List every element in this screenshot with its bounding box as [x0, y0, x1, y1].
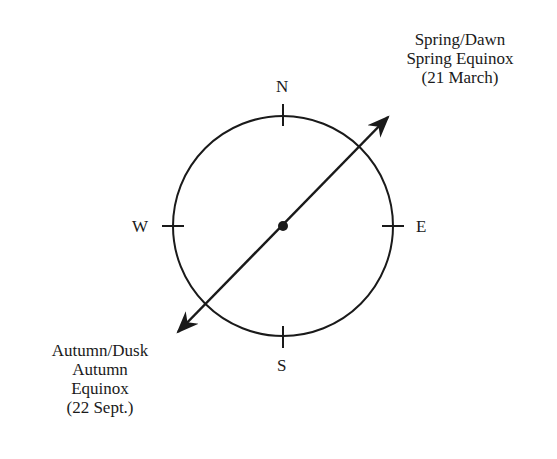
autumn-dusk-label: Autumn/Dusk Autumn Equinox (22 Sept.): [30, 341, 170, 417]
observer-dot: [278, 221, 288, 231]
west-label: W: [132, 217, 148, 236]
autumn-line-2: Autumn: [30, 360, 170, 379]
spring-line-3: (21 March): [390, 68, 530, 87]
spring-line-1: Spring/Dawn: [390, 30, 530, 49]
autumn-line-3: Equinox: [30, 379, 170, 398]
north-label: N: [276, 77, 288, 96]
south-label: S: [277, 356, 286, 375]
spring-line-2: Spring Equinox: [390, 49, 530, 68]
autumn-line-4: (22 Sept.): [30, 398, 170, 417]
east-label: E: [416, 217, 426, 236]
autumn-line-1: Autumn/Dusk: [30, 341, 170, 360]
spring-dawn-label: Spring/Dawn Spring Equinox (21 March): [390, 30, 530, 87]
